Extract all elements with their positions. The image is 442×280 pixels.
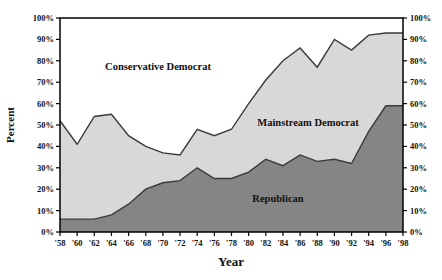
area-label-mainstream-democrat: Mainstream Democrat — [257, 117, 359, 128]
y-axis-left-tick-label: 60% — [37, 99, 54, 109]
y-axis-right-tick-label: 20% — [410, 184, 427, 194]
x-axis-tick-label: '70 — [157, 238, 168, 248]
x-axis-tick-label: '74 — [192, 238, 204, 248]
y-axis-title: Percent — [4, 107, 16, 143]
x-axis-tick-label: '82 — [260, 238, 271, 248]
y-axis-right-tick-label: 0% — [410, 227, 423, 237]
y-axis-left-tick-label: 70% — [37, 77, 54, 87]
y-axis-left-tick-label: 80% — [37, 56, 54, 66]
x-axis-tick-label: '98 — [398, 238, 409, 248]
x-axis-tick-label: '66 — [123, 238, 134, 248]
y-axis-left-tick-label: 20% — [37, 184, 54, 194]
y-axis-left-tick-label: 30% — [37, 163, 54, 173]
x-axis-tick-label: '78 — [226, 238, 237, 248]
x-axis-tick-label: '76 — [209, 238, 220, 248]
area-label-conservative-democrat: Conservative Democrat — [105, 61, 211, 72]
x-axis-tick-label: '92 — [346, 238, 357, 248]
y-axis-right-tick-label: 10% — [410, 206, 427, 216]
x-axis-tick-label: '84 — [278, 238, 290, 248]
y-axis-left-tick-label: 50% — [37, 120, 54, 130]
y-axis-right-tick-label: 40% — [410, 141, 427, 151]
y-axis-right-tick-label: 80% — [410, 56, 427, 66]
x-axis-tick-label: '72 — [175, 238, 186, 248]
x-axis-tick-label: '90 — [329, 238, 340, 248]
y-axis-left-tick-label: 100% — [33, 13, 54, 23]
y-axis-left-tick-label: 0% — [41, 227, 54, 237]
y-axis-left-tick-label: 40% — [37, 141, 54, 151]
y-axis-left-tick-label: 10% — [37, 206, 54, 216]
y-axis-right-tick-label: 60% — [410, 99, 427, 109]
x-axis-tick-label: '62 — [89, 238, 100, 248]
area-label-republican: Republican — [252, 193, 304, 204]
y-axis-right-tick-label: 90% — [410, 34, 427, 44]
y-axis-left-tick-label: 90% — [37, 34, 54, 44]
x-axis-tick-label: '64 — [106, 238, 118, 248]
stacked-area-chart: 0%0%10%10%20%20%30%30%40%40%50%50%60%60%… — [0, 0, 442, 280]
y-axis-right-tick-label: 30% — [410, 163, 427, 173]
x-axis-tick-label: '80 — [243, 238, 254, 248]
x-axis-tick-label: '86 — [295, 238, 306, 248]
x-axis-tick-label: '60 — [72, 238, 83, 248]
chart-canvas: 0%0%10%10%20%20%30%30%40%40%50%50%60%60%… — [0, 0, 442, 280]
x-axis-tick-label: '94 — [363, 238, 375, 248]
y-axis-right-tick-label: 70% — [410, 77, 427, 87]
x-axis-tick-label: '88 — [312, 238, 323, 248]
y-axis-right-tick-label: 100% — [410, 13, 431, 23]
x-axis-title: Year — [218, 254, 244, 269]
x-axis-tick-label: '68 — [140, 238, 151, 248]
x-axis-tick-label: '58 — [55, 238, 66, 248]
x-axis-tick-label: '96 — [380, 238, 391, 248]
y-axis-right-tick-label: 50% — [410, 120, 427, 130]
